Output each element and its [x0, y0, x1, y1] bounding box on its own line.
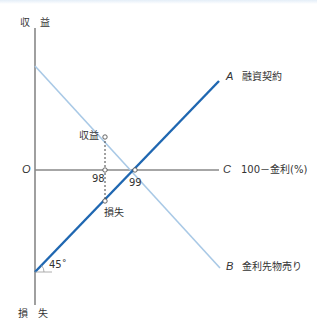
angle-arc-icon [42, 266, 45, 273]
x-98-label: 98 [92, 174, 105, 184]
line-a-label: 融資契約 [242, 72, 282, 82]
profit-label: 収益 [79, 131, 99, 141]
line-b-futures-sell [35, 66, 220, 268]
loss-point-marker [103, 199, 107, 203]
loss-label: 損失 [104, 208, 124, 218]
x-axis-label: 100－金利(%) [241, 165, 307, 175]
point-99-marker [133, 168, 137, 172]
origin-label: O [22, 164, 31, 175]
x-99-label: 99 [129, 178, 142, 188]
line-b-letter: B [226, 261, 233, 272]
angle-label: 45˚ [49, 260, 67, 270]
profit-point-marker [103, 135, 107, 139]
line-a-letter: A [226, 71, 233, 82]
line-b-label: 金利先物売り [242, 262, 302, 272]
x-axis-letter: C [223, 164, 231, 175]
line-a-loan-contract [35, 81, 219, 272]
y-axis-bottom-label: 損 失 [18, 309, 48, 319]
point-98-marker [103, 168, 107, 172]
y-axis-top-label: 収 益 [20, 18, 50, 28]
